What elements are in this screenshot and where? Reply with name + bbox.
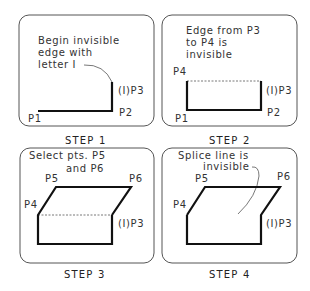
panel-step-1: Begin invisible edge with letter I (I)P3… xyxy=(19,15,154,146)
visible-edges xyxy=(38,187,131,244)
label-p6: P6 xyxy=(277,171,291,182)
label-p4: P4 xyxy=(173,199,187,210)
label-p3: (I)P3 xyxy=(266,218,292,229)
label-p3: (I)P3 xyxy=(266,85,292,96)
panel-step-2: Edge from P3 to P4 is invisible P4 (I)P3… xyxy=(162,15,297,146)
note-line-2: and P6 xyxy=(66,163,104,174)
step-caption: STEP 2 xyxy=(209,135,251,146)
label-p6: P6 xyxy=(129,173,143,184)
label-p4: P4 xyxy=(173,66,187,77)
note-line-1: Begin invisible xyxy=(38,35,120,46)
label-p4: P4 xyxy=(24,199,38,210)
panel-step-3: Select pts. P5 and P6 P5 P6 P4 (I)P3 STE… xyxy=(20,148,154,280)
visible-edges xyxy=(187,81,261,110)
label-p1: P1 xyxy=(175,113,189,124)
leader-line xyxy=(84,65,112,82)
note-line-2: edge with xyxy=(38,47,93,58)
panel-frame xyxy=(19,15,154,126)
label-p2: P2 xyxy=(119,107,133,118)
visible-edge-p1-p2-p3 xyxy=(38,82,112,111)
step-caption: STEP 1 xyxy=(65,135,107,146)
note-line-1: Edge from P3 xyxy=(186,25,260,36)
note-line-3: invisible xyxy=(186,49,232,60)
step-caption: STEP 4 xyxy=(209,269,251,280)
label-p1: P1 xyxy=(28,113,42,124)
note-line-3: letter I xyxy=(38,59,76,70)
note-line-2: to P4 is xyxy=(186,37,228,48)
note-line-1: Select pts. P5 xyxy=(29,150,106,161)
note-line-1: Splice line is xyxy=(178,150,249,161)
label-p2: P2 xyxy=(267,107,281,118)
invisible-edge-steps-diagram: Begin invisible edge with letter I (I)P3… xyxy=(0,0,310,291)
label-p3: (I)P3 xyxy=(118,85,144,96)
note-line-2: invisible xyxy=(203,161,249,172)
label-p3: (I)P3 xyxy=(118,218,144,229)
panel-step-4: Splice line is invisible P5 P6 P4 (I)P3 … xyxy=(162,148,297,280)
step-caption: STEP 3 xyxy=(64,269,106,280)
label-p5: P5 xyxy=(45,173,59,184)
leader-line xyxy=(238,167,259,214)
visible-edges xyxy=(187,187,280,244)
label-p5: P5 xyxy=(195,173,209,184)
